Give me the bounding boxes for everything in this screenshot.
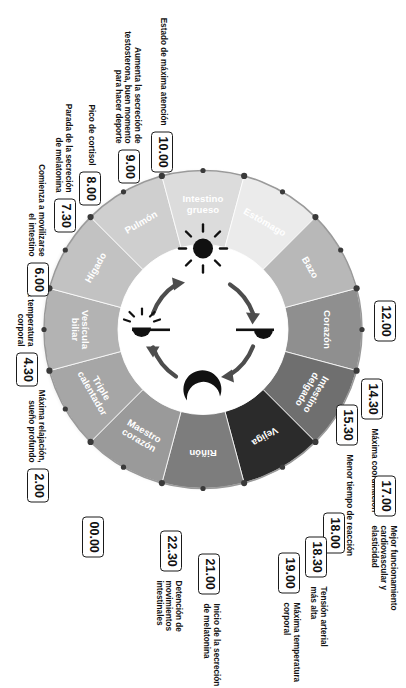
- wheel-svg: CorazónIntestinodelgadoVejigaRiñónMaestr…: [40, 166, 366, 492]
- time-chip-21-00[interactable]: 21.00: [199, 553, 221, 594]
- time-chip-8-00[interactable]: 8.00: [80, 171, 102, 205]
- note-15-30: Menor tiempo de reacción: [344, 454, 354, 599]
- note-7-30: Parada de la secreción de melatonina: [54, 74, 73, 192]
- note-6-00: Comienza a movilizarse el intestino: [27, 134, 46, 256]
- note-22-30: Detención de movimientos intestinales: [154, 580, 183, 684]
- time-chip-4-30[interactable]: 4.30: [17, 352, 39, 386]
- time-chip-6-00[interactable]: 6.00: [28, 262, 50, 296]
- sun-icon: [179, 224, 227, 272]
- note-9-00: Aumenta la secreción de testosterona, bu…: [113, 3, 142, 143]
- hour-marker-dot: [200, 167, 205, 172]
- organ-label: Intestinogrueso: [183, 193, 224, 214]
- hour-marker-dot: [241, 172, 247, 178]
- time-chip-00-00[interactable]: 00.00: [83, 516, 105, 557]
- time-chip-22-30[interactable]: 22.30: [161, 530, 183, 571]
- time-chip-2-00[interactable]: 2.00: [28, 468, 50, 502]
- hour-marker-dot: [121, 189, 126, 194]
- note-21-00: Inicio de la secreción de melatonina: [202, 603, 221, 687]
- note-19-00: Máxima temperatura corporal: [282, 602, 301, 688]
- time-chip-9-00[interactable]: 9.00: [119, 149, 141, 183]
- organ-label: Corazón: [322, 309, 333, 348]
- time-chip-15-30[interactable]: 15.30: [337, 404, 359, 445]
- time-chip-7-30[interactable]: 7.30: [55, 198, 77, 232]
- time-chip-18-30[interactable]: 18.30: [306, 536, 328, 577]
- time-chip-17-00[interactable]: 17.00: [375, 475, 397, 516]
- hour-marker-dot: [280, 189, 285, 194]
- note-18-30: Tensión arterial más alta: [309, 586, 328, 682]
- note-10-00: Estado de máxima atención: [158, 0, 168, 125]
- note-17-00: Mejor funcionamiento cardiovascular y el…: [369, 525, 398, 655]
- time-chip-10-00[interactable]: 10.00: [152, 131, 174, 172]
- time-chip-14-30[interactable]: 14.30: [362, 378, 384, 419]
- time-chip-19-00[interactable]: 19.00: [279, 552, 301, 593]
- organ-clock-wheel: CorazónIntestinodelgadoVejigaRiñónMaestr…: [40, 166, 366, 492]
- note-8-00: Pico de cortisol: [86, 73, 96, 165]
- hour-marker-dot: [159, 172, 165, 178]
- time-chip-12-00[interactable]: 12.00: [375, 300, 397, 341]
- organ-label: Riñón: [189, 448, 217, 459]
